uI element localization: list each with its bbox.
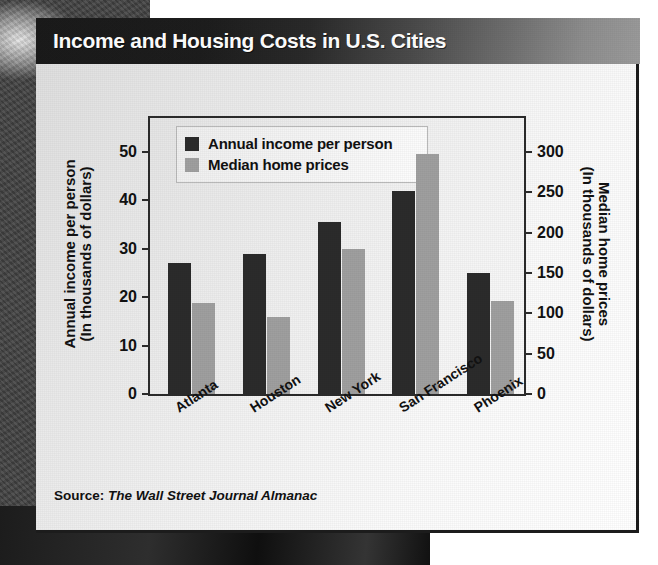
- left-axis-tick-label: 20: [119, 289, 137, 305]
- left-axis-tick-mark: [142, 393, 150, 395]
- right-axis-tick-label: 50: [537, 346, 555, 362]
- bar-median-home-price: [342, 249, 365, 394]
- title-banner: Income and Housing Costs in U.S. Cities: [36, 18, 640, 64]
- left-axis-tick-label: 0: [128, 386, 137, 402]
- infographic-page: Income and Housing Costs in U.S. Cities …: [0, 0, 658, 565]
- left-axis-title-line1: Annual income per person: [62, 159, 78, 348]
- right-axis-tick-mark: [524, 151, 532, 153]
- bar-income-per-person: [168, 263, 191, 394]
- right-axis-tick-mark: [524, 353, 532, 355]
- infographic-card: Income and Housing Costs in U.S. Cities …: [36, 18, 640, 530]
- page-title: Income and Housing Costs in U.S. Cities: [53, 29, 446, 53]
- bar-income-per-person: [467, 273, 490, 394]
- left-axis-tick-mark: [142, 199, 150, 201]
- left-axis-title: Annual income per person (In thousands o…: [62, 159, 94, 348]
- left-axis-tick-mark: [142, 296, 150, 298]
- right-axis-tick-label: 250: [537, 184, 564, 200]
- bar-income-per-person: [318, 222, 341, 394]
- source-line: Source: The Wall Street Journal Almanac: [54, 488, 317, 503]
- right-axis-tick-label: 0: [537, 386, 546, 402]
- bar-income-per-person: [392, 191, 415, 394]
- right-axis-tick-label: 150: [537, 265, 564, 281]
- right-axis-tick-label: 100: [537, 305, 564, 321]
- right-axis-title-line2: (In thousands of dollars): [580, 167, 596, 342]
- right-axis-title: Median home prices (In thousands of doll…: [580, 167, 612, 342]
- source-publication: The Wall Street Journal Almanac: [108, 488, 317, 503]
- left-axis-tick-label: 30: [119, 241, 137, 257]
- bar-group: [168, 118, 215, 394]
- right-axis-title-line1: Median home prices: [596, 167, 612, 342]
- right-axis-tick-mark: [524, 272, 532, 274]
- right-axis-tick-label: 300: [537, 144, 564, 160]
- chart-panel: Annual income per person (In thousands o…: [36, 64, 639, 533]
- left-axis-tick-label: 40: [119, 192, 137, 208]
- bar-group: [318, 118, 365, 394]
- bar-income-per-person: [243, 254, 266, 394]
- left-axis-tick-mark: [142, 248, 150, 250]
- left-axis-tick-label: 10: [119, 338, 137, 354]
- bar-median-home-price: [416, 154, 439, 394]
- bar-group: [243, 118, 290, 394]
- bar-series-container: [150, 118, 524, 394]
- right-axis-tick-mark: [524, 312, 532, 314]
- right-axis-tick-mark: [524, 393, 532, 395]
- left-axis-tick-mark: [142, 345, 150, 347]
- bar-group: [392, 118, 439, 394]
- left-axis-tick-mark: [142, 151, 150, 153]
- left-axis-title-line2: (In thousands of dollars): [78, 159, 94, 348]
- left-axis-tick-label: 50: [119, 144, 137, 160]
- right-axis-tick-mark: [524, 232, 532, 234]
- right-axis-tick-mark: [524, 191, 532, 193]
- source-label: Source:: [54, 488, 104, 503]
- right-axis-tick-label: 200: [537, 225, 564, 241]
